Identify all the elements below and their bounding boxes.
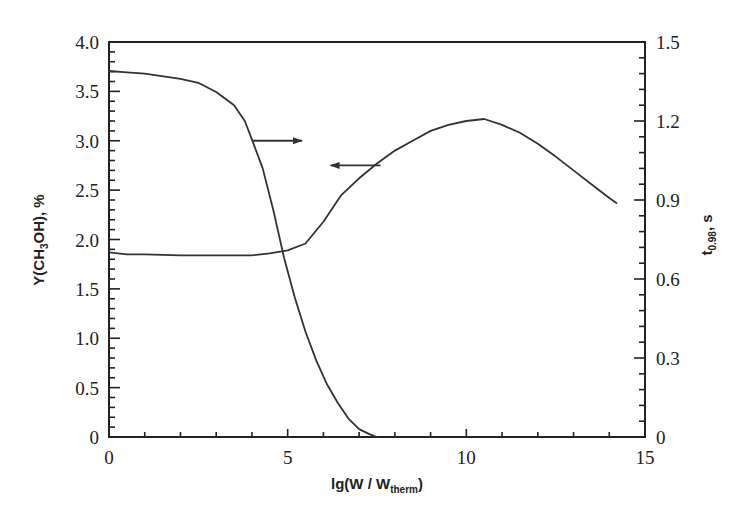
y-right-tick-label: 0 xyxy=(656,427,666,448)
y-right-tick-label: 1.5 xyxy=(656,32,680,53)
y-left-tick-label: 0 xyxy=(90,427,100,448)
y-left-tick-label: 3.5 xyxy=(75,81,99,102)
x-tick-label: 10 xyxy=(457,447,476,468)
curve-methanol-yield xyxy=(109,119,616,255)
left-axis-tick-labels: 00.51.01.52.02.53.03.54.0 xyxy=(75,32,99,448)
y-right-tick-label: 1.2 xyxy=(656,111,680,132)
y-left-tick-label: 3.0 xyxy=(75,131,99,152)
y-right-tick-label: 0.6 xyxy=(656,269,680,290)
bottom-axis-tick-labels: 051015 xyxy=(104,447,654,468)
y-left-tick-label: 0.5 xyxy=(75,378,99,399)
y-left-tick-label: 2.0 xyxy=(75,230,99,251)
x-axis-title: lg(W / Wtherm) xyxy=(331,475,423,495)
plot-frame xyxy=(109,42,645,437)
x-tick-label: 15 xyxy=(636,447,655,468)
y-axis-left-title: Y(CH3OH), % xyxy=(30,194,50,285)
dual-axis-line-chart: 00.51.01.52.02.53.03.54.0 00.30.60.91.21… xyxy=(0,0,741,523)
y-left-tick-label: 1.5 xyxy=(75,279,99,300)
y-left-tick-label: 2.5 xyxy=(75,180,99,201)
y-right-tick-label: 0.9 xyxy=(656,190,680,211)
x-tick-label: 5 xyxy=(283,447,293,468)
bottom-axis-ticks xyxy=(109,429,645,437)
right-axis-ticks xyxy=(634,42,645,437)
right-axis-tick-labels: 00.30.60.91.21.5 xyxy=(656,32,680,448)
y-right-tick-label: 0.3 xyxy=(656,348,680,369)
y-left-tick-label: 1.0 xyxy=(75,328,99,349)
y-axis-right-title: t0.98, s xyxy=(698,214,718,255)
x-tick-label: 0 xyxy=(104,447,114,468)
left-axis-ticks xyxy=(109,42,120,437)
y-left-tick-label: 4.0 xyxy=(75,32,99,53)
